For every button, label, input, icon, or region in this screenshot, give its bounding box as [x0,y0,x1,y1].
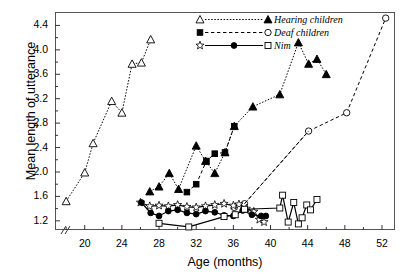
data-point-open-star [196,41,204,49]
data-point-open-triangle [147,35,155,42]
x-axis-title: Age (months) [55,255,395,269]
data-point-open-square [314,196,320,202]
data-point-filled-triangle [165,169,173,176]
x-tick-label: 40 [259,237,283,249]
y-tick-label: 2.8 [22,116,48,128]
x-tick-label: 32 [184,237,208,249]
x-tick-label: 28 [147,237,171,249]
data-point-open-triangle [81,169,89,176]
data-point-filled-triangle [175,185,183,192]
data-point-open-square [285,219,291,225]
x-tick-label: 52 [370,237,394,249]
data-point-open-triangle [62,197,70,204]
series-2 [184,123,237,195]
data-point-open-star [211,201,219,209]
series-1 [146,39,331,195]
x-tick-label: 48 [333,237,357,249]
data-point-open-square [156,220,162,226]
data-point-filled-square [197,30,203,36]
data-point-open-square [242,206,248,212]
data-point-open-square [221,214,227,220]
data-point-filled-circle [203,208,209,214]
data-point-open-star [183,202,191,210]
data-point-open-triangle [89,139,97,146]
series-line [150,43,327,192]
data-point-open-square [299,215,305,221]
data-point-filled-triangle [313,55,321,62]
data-point-open-circle [265,29,271,35]
y-tick-label: 3.2 [22,92,48,104]
data-point-filled-circle [231,43,237,49]
data-point-filled-square [212,151,218,157]
legend-label-deaf: Deaf children [274,26,329,39]
data-point-filled-triangle [322,70,330,77]
data-point-filled-triangle [305,60,313,67]
data-point-filled-circle [156,213,162,219]
y-tick-label: 4.4 [22,18,48,30]
y-tick-label: 2.4 [22,141,48,153]
data-point-open-triangle [128,60,136,67]
data-point-filled-circle [138,200,144,206]
data-point-filled-square [222,150,228,156]
series-line [66,39,151,201]
series-0 [62,35,155,204]
data-point-open-triangle [108,97,116,104]
data-point-filled-circle [165,208,171,214]
data-point-filled-circle [184,210,190,216]
data-point-filled-circle [193,211,199,217]
data-point-open-square [277,205,283,211]
data-point-open-square [295,221,301,227]
y-tick-label: 4.0 [22,43,48,55]
data-point-filled-square [193,181,199,187]
data-point-open-triangle [196,16,204,23]
data-point-open-circle [343,110,349,116]
data-point-filled-circle [148,210,154,216]
x-tick-label: 24 [110,237,134,249]
data-point-open-circle [383,15,389,21]
x-tick-label: 20 [73,237,97,249]
data-point-filled-circle [263,213,269,219]
data-point-filled-circle [212,209,218,215]
data-point-open-square [232,212,238,218]
chart-figure: Mean length of utterance Age (months) He… [0,0,405,279]
y-axis-title: Mean length of utterance [24,1,38,221]
data-point-filled-square [231,123,237,129]
series-3 [231,15,389,211]
data-point-open-square [186,224,192,230]
x-tick-label: 44 [296,237,320,249]
data-point-filled-triangle [192,142,200,149]
data-point-filled-triangle [276,90,284,97]
data-point-open-triangle [137,59,145,66]
data-point-open-square [265,43,271,49]
data-point-filled-triangle [264,16,272,23]
y-tick-label: 1.2 [22,214,48,226]
data-point-filled-circle [249,212,255,218]
data-point-filled-circle [175,207,181,213]
data-point-filled-triangle [146,188,154,195]
legend-label-hearing: Hearing children [274,13,343,26]
data-point-filled-triangle [249,103,257,110]
x-tick-label: 36 [221,237,245,249]
data-point-open-star [155,201,163,209]
data-point-open-square [307,207,313,213]
data-point-open-square [280,192,286,198]
y-tick-label: 1.6 [22,189,48,201]
data-point-open-star [192,203,200,211]
legend-label-nim: Nim [274,39,291,52]
data-point-open-square [291,200,297,206]
y-tick-label: 2.0 [22,165,48,177]
data-point-filled-triangle [294,39,302,46]
data-point-filled-square [184,189,190,195]
data-point-filled-triangle [155,183,163,190]
series-line [234,18,385,207]
data-point-filled-square [204,158,210,164]
y-tick-label: 3.6 [22,67,48,79]
data-point-open-star [220,199,228,207]
